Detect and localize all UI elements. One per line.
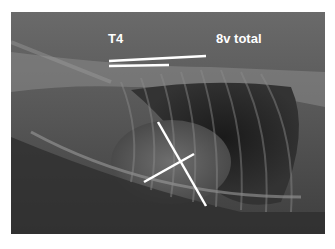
annotation-overlay (11, 12, 325, 234)
t4-label: T4 (108, 32, 123, 45)
radiograph: T4 8v total (11, 12, 325, 234)
vertebral-span-line (109, 56, 206, 61)
heart-short-axis-line (144, 154, 194, 182)
t4-reference-line (109, 65, 169, 66)
heart-long-axis-line (158, 122, 206, 206)
vertebrae-total-label: 8v total (216, 32, 262, 45)
